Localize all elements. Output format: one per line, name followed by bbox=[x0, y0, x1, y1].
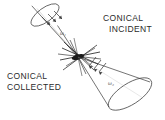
label-conical-incident-line1: CONICAL bbox=[103, 13, 152, 24]
label-conical-incident: CONICAL INCIDENT bbox=[103, 13, 152, 35]
incident-cone-base-ellipse bbox=[28, 0, 63, 30]
collected-cone-ruling-1 bbox=[78, 57, 143, 98]
label-conical-collected: CONICAL COLLECTED bbox=[7, 71, 61, 93]
collected-cone-edge-lower bbox=[78, 57, 109, 107]
collected-arrowhead-1 bbox=[89, 66, 92, 69]
collected-arrowhead-2 bbox=[94, 69, 97, 72]
collected-flux-arrows bbox=[89, 57, 106, 72]
collected-arrowhead-3 bbox=[99, 72, 102, 75]
figure-root: ω₁ bbox=[0, 0, 165, 120]
label-conical-collected-line2: COLLECTED bbox=[7, 82, 61, 93]
label-conical-incident-line2: INCIDENT bbox=[103, 24, 152, 35]
incident-angle-label: ω₁ bbox=[60, 30, 66, 36]
collected-cone-edge-upper bbox=[78, 57, 150, 82]
incident-cone-ruling-2 bbox=[45, 21, 78, 58]
label-conical-collected-line1: CONICAL bbox=[7, 71, 61, 82]
collected-angle-label: ω₂ bbox=[108, 80, 114, 86]
collected-cone-base-ellipse bbox=[103, 72, 156, 117]
